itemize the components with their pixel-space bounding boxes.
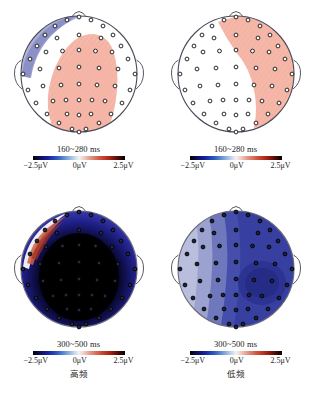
colorbar-tick-mid: 0μV xyxy=(230,356,244,366)
scalp-field xyxy=(166,2,306,142)
condition-label-high-freq: 高频 xyxy=(70,369,88,380)
panel-high-freq-300-500: 300~500 ms −2.5μV 0μV 2.5μV 高频 xyxy=(0,197,157,380)
scalp-field xyxy=(9,2,149,142)
topomap-figure: 160~280 ms −2.5μV 0μV 2.5μV xyxy=(0,0,314,394)
colorbar-title: 300~500 ms xyxy=(57,339,100,350)
colorbar-high-freq-160-280: 160~280 ms −2.5μV 0μV 2.5μV xyxy=(24,144,134,171)
topomap-high-freq-160-280 xyxy=(9,2,149,142)
colorbar-ticks: −2.5μV 0μV 2.5μV xyxy=(24,161,134,171)
colorbar-tick-max: 2.5μV xyxy=(270,356,290,366)
colorbar-low-freq-300-500: 300~500 ms −2.5μV 0μV 2.5μV 低频 xyxy=(181,339,291,380)
topomap-low-freq-300-500 xyxy=(166,197,306,337)
colorbar-tick-mid: 0μV xyxy=(73,356,87,366)
topomap-high-freq-300-500 xyxy=(9,197,149,337)
colorbar-ticks: −2.5μV 0μV 2.5μV xyxy=(181,161,291,171)
colorbar-tick-min: −2.5μV xyxy=(181,161,206,171)
colorbar-high-freq-300-500: 300~500 ms −2.5μV 0μV 2.5μV 高频 xyxy=(24,339,134,380)
scalp-map-svg xyxy=(9,2,149,142)
colorbar-tick-max: 2.5μV xyxy=(113,161,133,171)
colorbar-low-freq-160-280: 160~280 ms −2.5μV 0μV 2.5μV xyxy=(181,144,291,171)
colorbar-gradient xyxy=(190,156,282,160)
colorbar-gradient xyxy=(33,156,125,160)
colorbar-tick-mid: 0μV xyxy=(73,161,87,171)
colorbar-ticks: −2.5μV 0μV 2.5μV xyxy=(181,356,291,366)
colorbar-ticks: −2.5μV 0μV 2.5μV xyxy=(24,356,134,366)
topomap-low-freq-160-280 xyxy=(166,2,306,142)
scalp-field xyxy=(9,197,149,337)
condition-label-low-freq: 低频 xyxy=(227,369,245,380)
colorbar-gradient xyxy=(33,351,125,355)
colorbar-gradient xyxy=(190,351,282,355)
colorbar-tick-min: −2.5μV xyxy=(24,161,49,171)
colorbar-tick-min: −2.5μV xyxy=(181,356,206,366)
colorbar-tick-max: 2.5μV xyxy=(113,356,133,366)
colorbar-title: 300~500 ms xyxy=(214,339,257,350)
colorbar-title: 160~280 ms xyxy=(57,144,100,155)
panel-low-freq-300-500: 300~500 ms −2.5μV 0μV 2.5μV 低频 xyxy=(157,197,314,380)
colorbar-tick-max: 2.5μV xyxy=(270,161,290,171)
colorbar-tick-mid: 0μV xyxy=(230,161,244,171)
scalp-map-svg xyxy=(166,197,306,337)
scalp-field xyxy=(166,197,306,337)
scalp-map-svg xyxy=(166,2,306,142)
scalp-map-svg xyxy=(9,197,149,337)
colorbar-title: 160~280 ms xyxy=(214,144,257,155)
panel-low-freq-160-280: 160~280 ms −2.5μV 0μV 2.5μV xyxy=(157,2,314,171)
colorbar-tick-min: −2.5μV xyxy=(24,356,49,366)
panel-high-freq-160-280: 160~280 ms −2.5μV 0μV 2.5μV xyxy=(0,2,157,171)
